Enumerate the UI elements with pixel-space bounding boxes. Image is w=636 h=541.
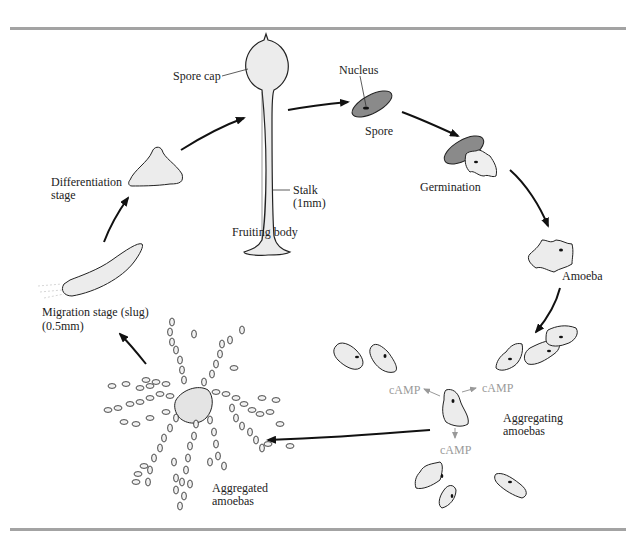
- arrow-spore-to-germination: [402, 112, 458, 136]
- germination-icon: [440, 130, 497, 176]
- arrow-differentiation-to-fruiting: [181, 118, 244, 150]
- label-spore: Spore: [365, 125, 393, 138]
- arrow-fruiting-to-spore: [288, 102, 348, 110]
- label-aggregated-2: amoebas: [212, 495, 254, 508]
- label-germination: Germination: [420, 181, 481, 194]
- arrow-aggregating-to-aggregated: [268, 430, 430, 440]
- spore-icon: [348, 76, 395, 122]
- label-spore-cap: Spore cap: [173, 70, 221, 83]
- label-migration-2: (0.5mm): [42, 320, 84, 333]
- label-camp-right: cAMP: [482, 382, 513, 395]
- label-migration-1: Migration stage (slug): [42, 306, 149, 319]
- label-differentiation-2: stage: [51, 189, 76, 202]
- label-stalk-size: (1mm): [293, 197, 326, 210]
- label-amoeba: Amoeba: [562, 270, 603, 283]
- spore-cap-leader: [222, 69, 248, 76]
- differentiation-stage-icon: [129, 147, 183, 186]
- amoeba-icon: [528, 240, 572, 272]
- slug-icon: [38, 244, 143, 298]
- arrow-slug-to-differentiation: [104, 198, 128, 242]
- arrow-germination-to-amoeba: [510, 170, 548, 226]
- life-cycle-diagram: [0, 0, 636, 541]
- label-nucleus: Nucleus: [339, 64, 378, 77]
- label-camp-left: cAMP: [389, 384, 420, 397]
- arrow-amoeba-to-aggregating: [536, 288, 560, 332]
- arrow-aggregated-to-slug: [120, 334, 146, 364]
- label-fruiting-body: Fruiting body: [232, 226, 298, 239]
- label-aggregating-2: amoebas: [503, 425, 545, 438]
- fruiting-body-icon: [222, 34, 290, 255]
- label-camp-bottom: cAMP: [440, 444, 471, 457]
